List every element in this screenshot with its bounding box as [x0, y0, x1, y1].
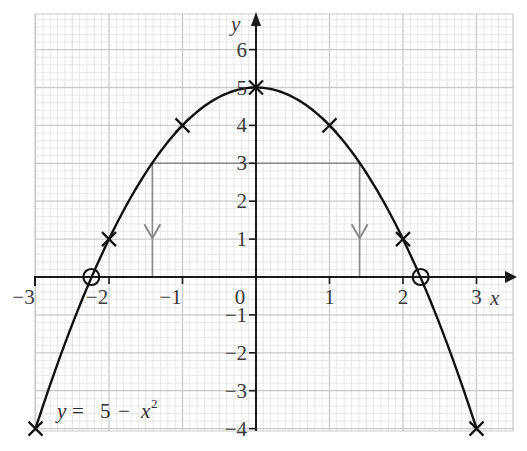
x-tick-label: −2	[86, 285, 108, 309]
x-tick-label: 3	[471, 285, 482, 309]
equation-label: y = 5 − x 2	[55, 396, 158, 423]
y-tick-label: −2	[225, 341, 247, 365]
equation-exponent: 2	[151, 396, 158, 411]
y-tick-label: −4	[225, 417, 248, 441]
y-tick-label: 6	[237, 38, 248, 62]
equation-equals: =	[72, 399, 84, 423]
x-tick-label: 2	[398, 285, 409, 309]
y-tick-label: 5	[237, 76, 248, 100]
y-tick-label: 3	[237, 151, 248, 175]
x-tick-label: −3	[12, 285, 34, 309]
y-tick-label: 2	[237, 189, 248, 213]
grid	[35, 14, 513, 431]
equation-lhs-y: y	[55, 399, 67, 423]
equation-x: x	[140, 399, 151, 423]
y-tick-label: 4	[237, 113, 248, 137]
x-axis-label: x	[489, 286, 500, 310]
graph-canvas: −3−2−11230−4−3−2−1123456 x y y = 5 − x 2	[0, 0, 527, 451]
y-tick-label: −1	[225, 303, 247, 327]
y-axis-label: y	[229, 12, 241, 36]
x-tick-label: 1	[324, 285, 335, 309]
y-tick-label: 1	[237, 227, 248, 251]
x-tick-label: −1	[159, 285, 181, 309]
equation-minus: −	[118, 399, 130, 423]
equation-five: 5	[100, 399, 111, 423]
y-tick-label: −3	[225, 379, 247, 403]
